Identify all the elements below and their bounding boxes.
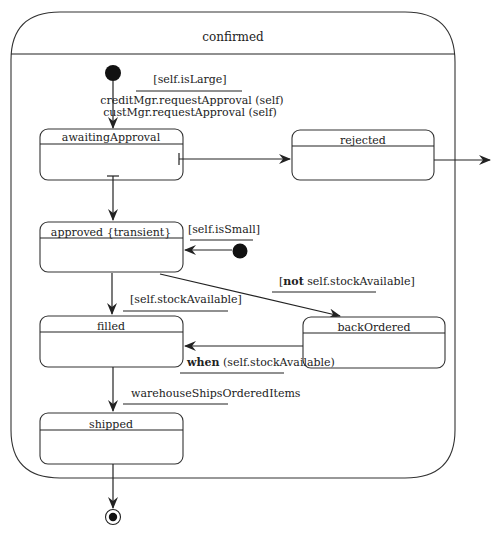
guard-not-stock-available: [not self.stockAvailable]: [279, 275, 415, 288]
action-cust-mgr: custMgr.requestApproval (self): [103, 106, 277, 119]
guard-is-large: [self.isLarge]: [153, 73, 226, 86]
event-warehouse-ships: warehouseShipsOrderedItems: [131, 387, 301, 400]
guard-stock-available: [self.stockAvailable]: [130, 293, 242, 306]
initial-state-icon[interactable]: [105, 65, 121, 81]
composite-state-title: confirmed: [202, 30, 264, 44]
state-approved[interactable]: approved {transient}: [40, 222, 183, 272]
state-title: filled: [97, 320, 125, 333]
guard-is-small: [self.isSmall]: [188, 223, 260, 236]
state-rejected[interactable]: rejected: [292, 130, 434, 180]
state-diagram: confirmed [self.isLarge] creditMgr.reque…: [0, 0, 497, 539]
when-stock-available: when (self.stockAvailable): [186, 356, 335, 369]
state-title: shipped: [89, 418, 133, 431]
state-title: approved {transient}: [51, 226, 171, 239]
initial-state-icon[interactable]: [233, 244, 248, 259]
state-filled[interactable]: filled: [40, 316, 183, 367]
state-awaiting-approval[interactable]: awaitingApproval: [40, 129, 183, 180]
final-state-icon[interactable]: [106, 510, 121, 525]
state-title: rejected: [340, 134, 386, 147]
state-title: awaitingApproval: [62, 131, 161, 144]
state-shipped[interactable]: shipped: [40, 413, 183, 464]
state-title: backOrdered: [337, 321, 410, 334]
